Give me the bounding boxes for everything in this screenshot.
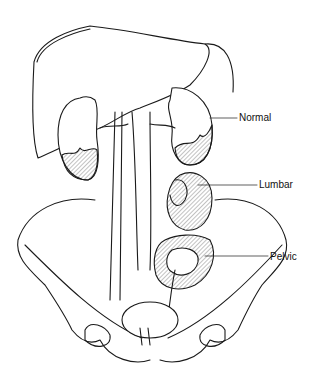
kidney-right-normal [168, 88, 212, 165]
label-pelvic: Pelvic [270, 252, 297, 262]
kidney-left-normal [58, 97, 98, 180]
label-normal: Normal [239, 113, 271, 123]
kidney-lumbar [167, 173, 212, 230]
label-lumbar: Lumbar [259, 180, 293, 190]
kidney-position-illustration [0, 0, 312, 382]
pelvis [18, 199, 287, 362]
